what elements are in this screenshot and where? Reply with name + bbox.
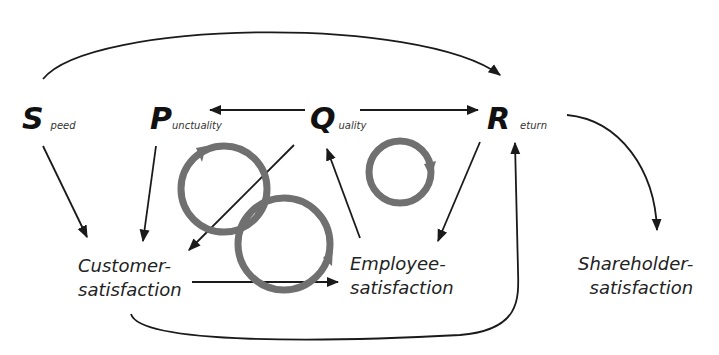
node-return-rest: eturn xyxy=(520,120,547,131)
node-return-initial: R xyxy=(487,101,510,136)
loop-center xyxy=(238,198,330,290)
node-quality-rest: uality xyxy=(339,120,367,131)
node-customer-satisfaction: Customer- satisfaction xyxy=(78,254,182,302)
node-punctuality: Punctuality xyxy=(150,101,222,136)
node-shareholder-line1: Shareholder- xyxy=(578,252,693,276)
node-speed: Speed xyxy=(22,101,76,136)
arc-speed-to-return xyxy=(43,32,500,79)
loop-left xyxy=(181,146,267,232)
node-employee-line2: satisfaction xyxy=(350,276,454,300)
node-punctuality-initial: P xyxy=(150,101,172,136)
arc-customer-to-return xyxy=(131,143,518,340)
node-return: Return xyxy=(487,101,547,136)
node-customer-line1: Customer- xyxy=(78,254,182,278)
node-speed-initial: S xyxy=(22,101,44,136)
node-speed-rest: peed xyxy=(51,120,76,131)
node-quality-initial: Q xyxy=(310,101,336,136)
node-quality: Quality xyxy=(310,101,366,136)
node-shareholder-satisfaction: Shareholder- satisfaction xyxy=(578,252,693,300)
loop-right xyxy=(369,141,431,203)
node-employee-line1: Employee- xyxy=(350,252,454,276)
node-shareholder-line2: satisfaction xyxy=(578,276,693,300)
curve-return-to-shareholder xyxy=(567,115,657,230)
arrow-return-to-employee xyxy=(438,142,480,241)
arrow-employee-to-quality xyxy=(327,149,360,238)
causal-loop-diagram: Speed Punctuality Quality Return Custome… xyxy=(0,0,719,355)
arrow-speed-to-customer xyxy=(43,146,87,237)
arrow-punctuality-to-customer xyxy=(143,146,156,241)
node-customer-line2: satisfaction xyxy=(78,278,182,302)
node-punctuality-rest: unctuality xyxy=(172,120,222,131)
node-employee-satisfaction: Employee- satisfaction xyxy=(350,252,454,300)
